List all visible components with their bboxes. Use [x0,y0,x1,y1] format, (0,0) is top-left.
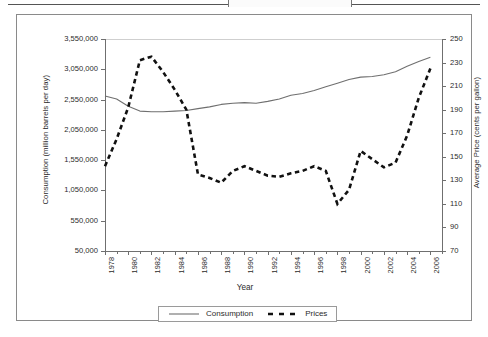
plot-top-rule [105,39,442,40]
xtick-minor [233,251,234,254]
yaxis-right-line [442,39,443,251]
xtick-label: 1988 [224,257,231,273]
ytick-left-label: 1,550,000 [64,156,98,164]
yaxis-left-line [105,39,106,251]
xtick-major [291,251,292,255]
ytick-left [101,69,105,70]
xtick-label: 1984 [178,257,185,273]
xtick-label: 2000 [364,257,371,273]
legend-item-prices: Prices [267,310,327,318]
ytick-right-label: 190 [450,106,463,114]
ytick-left-label: 3,550,000 [64,35,98,43]
xtick-major [407,251,408,255]
xtick-major [128,251,129,255]
xtick-major [314,251,315,255]
ytick-left [101,130,105,131]
xtick-major [337,251,338,255]
ytick-right-label: 210 [450,82,463,90]
xtick-minor [256,251,257,254]
chart-legend: Consumption Prices [158,306,337,322]
xtick-minor [210,251,211,254]
ytick-right [442,227,446,228]
xtick-major [175,251,176,255]
xtick-label: 1996 [317,257,324,273]
ytick-left [101,221,105,222]
xtick-minor [117,251,118,254]
xaxis-title: Year [17,283,473,292]
ytick-right [442,180,446,181]
ytick-right-label: 170 [450,129,463,137]
xtick-major [244,251,245,255]
ytick-left [101,100,105,101]
xtick-major [268,251,269,255]
xtick-minor [163,251,164,254]
xtick-minor [442,251,443,254]
ytick-left-label: 50,000 [75,247,98,255]
legend-swatch-dashed-icon [267,310,299,318]
xtick-minor [326,251,327,254]
xtick-minor [186,251,187,254]
xaxis-line [105,251,442,252]
ytick-left-label: 1,050,000 [64,187,98,195]
ytick-left-label: 2,550,000 [64,96,98,104]
xtick-label: 2006 [433,257,440,273]
ytick-right [442,157,446,158]
xtick-label: 1980 [131,257,138,273]
ytick-left-label: 3,050,000 [64,65,98,73]
ytick-left [101,160,105,161]
xtick-major [221,251,222,255]
yaxis-right-title: Average Price (cents per gallon) [472,77,481,188]
ytick-right [442,39,446,40]
ytick-right [442,63,446,64]
xtick-label: 2002 [387,257,394,273]
xtick-label: 1986 [201,257,208,273]
xtick-major [105,251,106,255]
xtick-minor [419,251,420,254]
ytick-right-label: 130 [450,177,463,185]
plot-area: 50,000550,0001,050,0001,550,0002,050,000… [105,39,442,251]
yaxis-left-title: Consumption (million barrels per day) [41,75,50,205]
ytick-right-label: 250 [450,35,463,43]
xtick-major [198,251,199,255]
xtick-major [430,251,431,255]
legend-label-consumption: Consumption [206,310,253,318]
xtick-label: 2004 [410,257,417,273]
ytick-left [101,190,105,191]
ytick-right-label: 230 [450,59,463,67]
xtick-minor [372,251,373,254]
ytick-right-label: 70 [450,247,458,255]
xtick-major [384,251,385,255]
ytick-right-label: 110 [450,200,462,208]
ytick-right [442,133,446,134]
xtick-label: 1990 [247,257,254,273]
caption-fragment [228,0,352,7]
ytick-right-label: 150 [450,153,463,161]
figure-frame: Consumption (million barrels per day) Av… [16,14,472,321]
xtick-major [151,251,152,255]
xtick-major [361,251,362,255]
xtick-minor [140,251,141,254]
xtick-label: 1982 [154,257,161,273]
legend-label-prices: Prices [305,310,327,318]
ytick-right-label: 90 [450,224,458,232]
ytick-left-label: 550,000 [71,217,98,225]
xtick-minor [279,251,280,254]
xtick-label: 1992 [271,257,278,273]
legend-item-consumption: Consumption [168,310,253,318]
xtick-label: 1978 [108,257,115,273]
xtick-minor [303,251,304,254]
xtick-label: 1994 [294,257,301,273]
ytick-right [442,110,446,111]
ytick-left [101,39,105,40]
ytick-right [442,204,446,205]
xtick-label: 1998 [340,257,347,273]
xtick-minor [396,251,397,254]
xtick-minor [349,251,350,254]
ytick-right [442,86,446,87]
ytick-left-label: 2,050,000 [64,126,98,134]
legend-swatch-solid-icon [168,310,200,318]
